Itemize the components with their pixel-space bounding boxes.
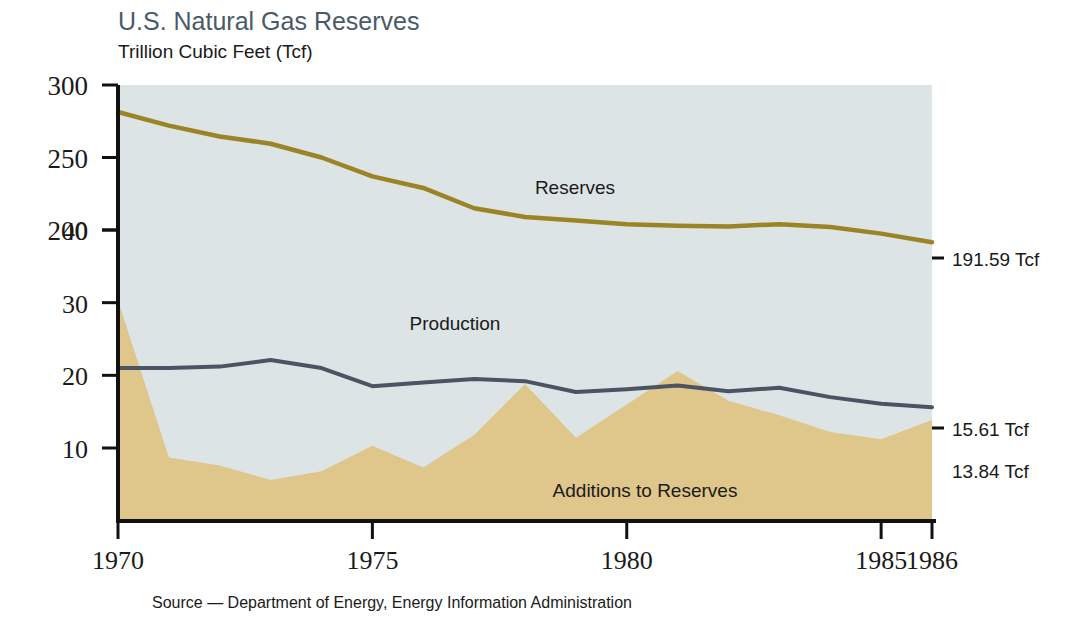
plot-area-fills <box>118 85 932 521</box>
y-tick-label-production: 40 <box>62 217 88 246</box>
y-tick-label-production: 10 <box>62 435 88 464</box>
series-label-additions: Additions to Reserves <box>553 480 738 501</box>
series-label-production: Production <box>410 313 501 334</box>
x-tick-label: 1986 <box>906 546 958 575</box>
chart-title: U.S. Natural Gas Reserves <box>118 7 420 35</box>
chart-subtitle: Trillion Cubic Feet (Tcf) <box>118 41 313 62</box>
series-label-reserves: Reserves <box>535 177 615 198</box>
y-tick-label-reserves: 250 <box>48 144 89 174</box>
x-tick-label: 1975 <box>346 546 398 575</box>
y-tick-label-production: 30 <box>62 290 88 319</box>
chart-figure: U.S. Natural Gas Reserves Trillion Cubic… <box>0 0 1075 626</box>
end-label-production: 15.61 Tcf <box>952 419 1029 440</box>
natural-gas-reserves-chart: U.S. Natural Gas Reserves Trillion Cubic… <box>0 0 1075 626</box>
end-label-additions: 13.84 Tcf <box>952 461 1029 482</box>
x-tick-label: 1985 <box>855 546 907 575</box>
x-tick-label: 1970 <box>92 546 144 575</box>
y-tick-label-production: 20 <box>62 362 88 391</box>
y-tick-label-reserves: 300 <box>48 71 89 101</box>
x-tick-label: 1980 <box>601 546 653 575</box>
end-label-reserves: 191.59 Tcf <box>952 249 1040 270</box>
source-note: Source — Department of Energy, Energy In… <box>152 594 632 611</box>
